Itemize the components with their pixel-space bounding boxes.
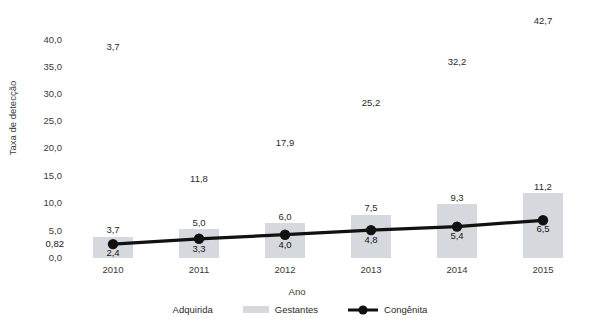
congenita-point-2013 <box>366 225 376 235</box>
y-tick-35: 35,0 <box>26 61 62 72</box>
x-axis-title: Ano <box>0 286 594 297</box>
legend-item-congenita[interactable]: Congênita <box>348 304 427 315</box>
y-tick-20: 20,0 <box>26 142 62 153</box>
y-tick-30: 30,0 <box>26 88 62 99</box>
congenita-polyline <box>113 220 543 244</box>
congenita-point-2011 <box>194 234 204 244</box>
chart-legend: Adquirida Gestantes Congênita <box>0 304 594 315</box>
y-tick-0: 0,0 <box>26 252 62 263</box>
y-tick-40: 40,0 <box>26 34 62 45</box>
legend-bar-swatch-icon <box>243 306 269 313</box>
legend-item-adquirida[interactable]: Adquirida <box>167 304 213 315</box>
legend-label-gestantes: Gestantes <box>275 304 318 315</box>
x-tick-2012: 2012 <box>242 264 328 275</box>
line-label-extra-0-82: 0,82 <box>46 238 65 249</box>
x-tick-2010: 2010 <box>70 264 156 275</box>
congenita-point-2014 <box>452 221 462 231</box>
plot-area: 3,7 3,7 2,4 0,82 11,8 5,0 3,3 17,9 6,0 4… <box>70 14 586 258</box>
congenita-point-2010 <box>108 239 118 249</box>
congenita-point-2015 <box>538 215 548 225</box>
y-tick-5: 5,0 <box>26 225 62 236</box>
legend-line-marker-icon <box>348 305 378 315</box>
x-tick-2013: 2013 <box>328 264 414 275</box>
legend-label-congenita: Congênita <box>384 304 427 315</box>
x-tick-2014: 2014 <box>414 264 500 275</box>
legend-label-adquirida: Adquirida <box>173 304 213 315</box>
y-axis-title: Taxa de detecção <box>7 58 18 178</box>
y-tick-15: 15,0 <box>26 170 62 181</box>
legend-item-gestantes[interactable]: Gestantes <box>243 304 318 315</box>
congenita-point-2012 <box>280 230 290 240</box>
x-tick-2011: 2011 <box>156 264 242 275</box>
congenita-line-series <box>70 14 586 258</box>
detection-rate-chart: Taxa de detecção 40,0 35,0 30,0 25,0 20,… <box>0 0 594 327</box>
y-tick-10: 10,0 <box>26 197 62 208</box>
y-axis-ticks: 40,0 35,0 30,0 25,0 20,0 15,0 10,0 5,0 0… <box>26 0 62 327</box>
y-tick-25: 25,0 <box>26 115 62 126</box>
x-tick-2015: 2015 <box>500 264 586 275</box>
